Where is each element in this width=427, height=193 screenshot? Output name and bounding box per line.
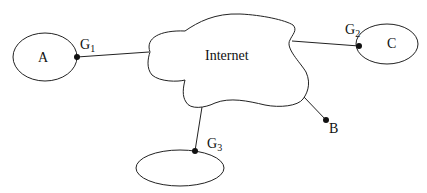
node-c-label: C	[387, 37, 396, 51]
node-a-label: A	[38, 51, 48, 65]
network-3-ellipse	[136, 150, 224, 186]
gateway-g3-label: G3	[207, 137, 222, 151]
gateway-g1-label: G1	[80, 38, 95, 52]
node-b-label: B	[329, 122, 338, 136]
gateway-g3-base: G	[207, 136, 217, 151]
internet-label: Internet	[205, 49, 249, 63]
gateway-g2-dot	[356, 43, 362, 49]
link-g2-internet	[292, 41, 359, 46]
link-g3-internet	[195, 107, 202, 151]
network-diagram	[0, 0, 427, 193]
gateway-g1-base: G	[80, 37, 90, 52]
gateway-g3-dot	[192, 148, 198, 154]
gateway-g3-sub: 3	[217, 142, 222, 153]
link-g1-internet	[77, 52, 149, 57]
gateway-g2-label: G2	[345, 23, 360, 37]
gateway-g1-dot	[74, 54, 80, 60]
gateway-g2-base: G	[345, 22, 355, 37]
link-b-internet	[304, 97, 326, 120]
gateway-g1-sub: 1	[90, 43, 95, 54]
gateway-g2-sub: 2	[355, 28, 360, 39]
